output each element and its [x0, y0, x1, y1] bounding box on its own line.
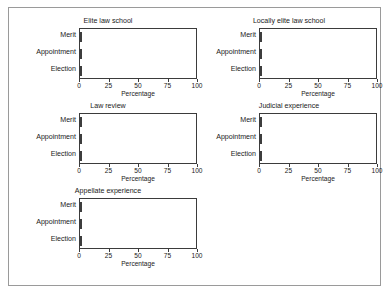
x-tick-label: 75 [164, 252, 171, 259]
category-label-election: Election [231, 149, 256, 159]
category-labels: Merit Appointment Election [17, 198, 76, 249]
bar-election [80, 151, 82, 161]
panel-locally-elite-law-school: Locally elite law school Merit Appointme… [199, 17, 379, 95]
figure-frame: Elite law school Merit Appointment Elect… [8, 7, 381, 286]
x-axis: 0 25 50 75 100 Percentage [79, 249, 197, 263]
x-axis: 0 25 50 75 100 Percentage [259, 164, 377, 178]
plot-area [79, 113, 197, 164]
plot-area [79, 198, 197, 249]
category-label-appointment: Appointment [36, 132, 76, 142]
x-tick-label: 0 [77, 252, 81, 259]
x-tick-label: 50 [314, 82, 321, 89]
x-tick-label: 50 [134, 82, 141, 89]
bar-election [80, 236, 82, 246]
x-tick-label: 0 [257, 167, 261, 174]
category-label-election: Election [231, 64, 256, 74]
category-label-appointment: Appointment [36, 47, 76, 57]
bar-merit [260, 32, 262, 42]
bar-appointment [260, 49, 262, 59]
plot-area [259, 28, 377, 79]
bar-merit [80, 117, 82, 127]
panel-judicial-experience: Judicial experience Merit Appointment El… [199, 102, 379, 180]
x-tick-label: 100 [191, 252, 202, 259]
bar-election [260, 66, 262, 76]
x-tick-label: 100 [371, 82, 382, 89]
x-tick-label: 25 [285, 167, 292, 174]
x-tick-label: 50 [314, 167, 321, 174]
x-tick-label: 25 [285, 82, 292, 89]
bar-appointment [80, 134, 82, 144]
category-label-election: Election [51, 234, 76, 244]
panel-title: Appellate experience [17, 187, 199, 196]
bar-merit [80, 202, 82, 212]
category-label-merit: Merit [240, 115, 256, 125]
category-labels: Merit Appointment Election [17, 28, 76, 79]
panel-appellate-experience: Appellate experience Merit Appointment E… [17, 187, 199, 265]
category-label-merit: Merit [60, 115, 76, 125]
plot-area [79, 28, 197, 79]
x-tick-label: 25 [105, 252, 112, 259]
x-tick-label: 75 [344, 167, 351, 174]
category-labels: Merit Appointment Election [199, 113, 256, 164]
panel-elite-law-school: Elite law school Merit Appointment Elect… [17, 17, 199, 95]
category-label-merit: Merit [60, 30, 76, 40]
bar-merit [260, 117, 262, 127]
bar-appointment [80, 219, 82, 229]
x-tick-label: 0 [77, 82, 81, 89]
panel-title: Law review [17, 102, 199, 111]
x-tick-label: 100 [371, 167, 382, 174]
category-labels: Merit Appointment Election [17, 113, 76, 164]
x-axis-title: Percentage [79, 175, 197, 182]
x-tick-label: 0 [257, 82, 261, 89]
category-label-election: Election [51, 149, 76, 159]
bar-election [80, 66, 82, 76]
x-axis: 0 25 50 75 100 Percentage [79, 79, 197, 93]
category-label-election: Election [51, 64, 76, 74]
category-label-appointment: Appointment [216, 47, 256, 57]
x-axis-title: Percentage [79, 260, 197, 267]
bar-election [260, 151, 262, 161]
plot-area [259, 113, 377, 164]
category-label-appointment: Appointment [36, 217, 76, 227]
panel-title: Locally elite law school [199, 17, 379, 26]
category-labels: Merit Appointment Election [199, 28, 256, 79]
category-label-merit: Merit [240, 30, 256, 40]
x-axis: 0 25 50 75 100 Percentage [79, 164, 197, 178]
x-tick-label: 75 [344, 82, 351, 89]
x-tick-label: 25 [105, 167, 112, 174]
bar-merit [80, 32, 82, 42]
category-label-merit: Merit [60, 200, 76, 210]
x-tick-label: 25 [105, 82, 112, 89]
x-axis-title: Percentage [79, 90, 197, 97]
x-axis: 0 25 50 75 100 Percentage [259, 79, 377, 93]
x-axis-title: Percentage [259, 175, 377, 182]
x-tick-label: 0 [77, 167, 81, 174]
panel-title: Judicial experience [199, 102, 379, 111]
bar-appointment [80, 49, 82, 59]
category-label-appointment: Appointment [216, 132, 256, 142]
panel-title: Elite law school [17, 17, 199, 26]
x-tick-label: 75 [164, 167, 171, 174]
panel-law-review: Law review Merit Appointment Election [17, 102, 199, 180]
x-tick-label: 75 [164, 82, 171, 89]
x-tick-label: 50 [134, 167, 141, 174]
bar-appointment [260, 134, 262, 144]
x-tick-label: 50 [134, 252, 141, 259]
figure: Elite law school Merit Appointment Elect… [0, 0, 390, 294]
x-axis-title: Percentage [259, 90, 377, 97]
